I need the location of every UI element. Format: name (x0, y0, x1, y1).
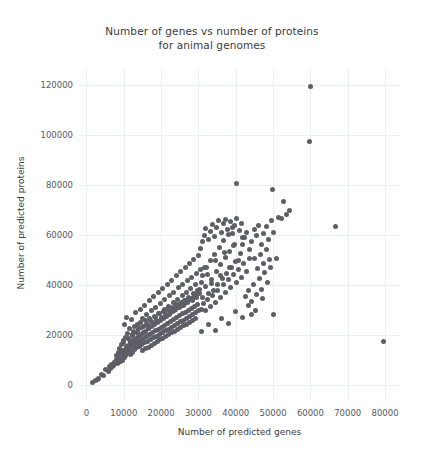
scatter-point (212, 252, 217, 257)
x-tick-label: 20000 (148, 408, 175, 418)
scatter-point (333, 224, 338, 229)
scatter-point (270, 187, 275, 192)
plot-area (79, 68, 400, 400)
scatter-point (138, 307, 143, 312)
scatter-point (101, 373, 106, 378)
scatter-point (189, 275, 194, 280)
scatter-point (191, 257, 196, 262)
scatter-point (201, 301, 206, 306)
scatter-point (213, 328, 218, 333)
scatter-point (221, 238, 226, 243)
scatter-point (260, 296, 265, 301)
scatter-point (226, 277, 231, 282)
scatter-point (239, 275, 244, 280)
scatter-point (204, 265, 209, 270)
scatter-point (226, 321, 231, 326)
scatter-point (238, 251, 243, 256)
scatter-point (209, 281, 214, 286)
scatter-point (153, 305, 158, 310)
scatter-point (234, 280, 239, 285)
scatter-point (180, 282, 185, 287)
scatter-point (243, 294, 248, 299)
scatter-point (255, 266, 260, 271)
data-points-layer (79, 68, 400, 400)
x-tick-label: 50000 (260, 408, 287, 418)
scatter-point (258, 252, 263, 257)
scatter-point (307, 139, 312, 144)
scatter-point (244, 230, 249, 235)
scatter-point (187, 261, 192, 266)
scatter-point (249, 239, 254, 244)
scatter-point (200, 239, 205, 244)
scatter-point (284, 212, 289, 217)
scatter-point (147, 298, 152, 303)
scatter-point (381, 339, 386, 344)
scatter-point (203, 284, 208, 289)
x-axis-tick-labels: 0100002000030000400005000060000700008000… (79, 408, 400, 424)
scatter-point (212, 234, 217, 239)
scatter-point (246, 303, 251, 308)
scatter-point (261, 261, 266, 266)
scatter-point (186, 295, 191, 300)
scatter-point (241, 261, 246, 266)
scatter-point (254, 233, 259, 238)
scatter-point (218, 262, 223, 267)
scatter-point (227, 249, 232, 254)
scatter-plot-figure: Number of genes vs number of proteins fo… (0, 0, 424, 467)
scatter-point (287, 208, 292, 213)
scatter-point (268, 265, 273, 270)
scatter-point (129, 317, 134, 322)
scatter-point (193, 316, 198, 321)
scatter-point (281, 199, 286, 204)
scatter-point (261, 231, 266, 236)
scatter-point (240, 315, 245, 320)
scatter-point (234, 216, 239, 221)
chart-title: Number of genes vs number of proteins fo… (0, 24, 424, 52)
x-tick-label: 40000 (222, 408, 249, 418)
scatter-point (215, 288, 220, 293)
scatter-point (230, 231, 235, 236)
scatter-point (151, 294, 156, 299)
scatter-point (240, 242, 245, 247)
scatter-point (171, 290, 176, 295)
scatter-point (259, 242, 264, 247)
scatter-point (183, 265, 188, 270)
scatter-point (174, 273, 179, 278)
y-tick-label: 120000 (11, 80, 73, 90)
scatter-point (165, 282, 170, 287)
y-axis-label: Number of predicted proteins (16, 133, 26, 313)
y-tick-label: 20000 (11, 330, 73, 340)
scatter-point (232, 223, 237, 228)
scatter-point (244, 269, 249, 274)
scatter-point (198, 246, 203, 251)
x-tick-label: 0 (84, 408, 89, 418)
scatter-point (218, 295, 223, 300)
scatter-point (178, 269, 183, 274)
scatter-point (213, 300, 218, 305)
scatter-point (133, 310, 138, 315)
scatter-point (234, 181, 239, 186)
scatter-point (177, 302, 182, 307)
scatter-point (256, 223, 261, 228)
scatter-point (195, 288, 200, 293)
scatter-point (239, 221, 244, 226)
y-tick-label: 0 (11, 380, 73, 390)
scatter-point (203, 308, 208, 313)
scatter-point (160, 286, 165, 291)
x-tick-label: 30000 (185, 408, 212, 418)
scatter-point (269, 218, 274, 223)
scatter-point (221, 282, 226, 287)
scatter-point (247, 256, 252, 261)
scatter-point (223, 290, 228, 295)
scatter-point (233, 309, 238, 314)
scatter-point (205, 297, 210, 302)
scatter-point (257, 276, 262, 281)
scatter-point (194, 271, 199, 276)
scatter-point (221, 221, 226, 226)
scatter-point (213, 258, 218, 263)
scatter-point (208, 304, 213, 309)
scatter-point (231, 272, 236, 277)
scatter-point (214, 225, 219, 230)
scatter-point (267, 257, 272, 262)
scatter-point (122, 322, 127, 327)
